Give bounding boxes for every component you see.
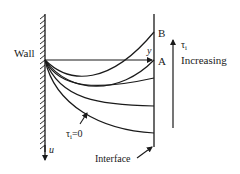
interface-arrow	[137, 147, 152, 158]
profile-tau-zero	[45, 60, 154, 133]
point-b-label: B	[158, 27, 165, 39]
u-axis-label: u	[49, 144, 54, 155]
increasing-label: Increasing	[181, 54, 227, 66]
point-a-label: A	[158, 55, 166, 67]
diagram-canvas: Wall u y B A τi Increasing τi=0 Interfac…	[0, 0, 240, 174]
interface-label: Interface	[95, 153, 131, 164]
y-axis-label: y	[146, 45, 152, 56]
wall-label: Wall	[14, 47, 35, 59]
profile-b	[45, 32, 154, 76]
profile-4	[45, 60, 154, 106]
profile-3	[45, 60, 154, 85]
wall	[40, 14, 45, 152]
tau-label: τi	[181, 39, 187, 52]
tau-zero-label: τi=0	[66, 128, 83, 141]
tau-zero-arrow	[80, 113, 87, 124]
wall-hatching	[40, 15, 45, 149]
velocity-profiles	[45, 32, 154, 133]
